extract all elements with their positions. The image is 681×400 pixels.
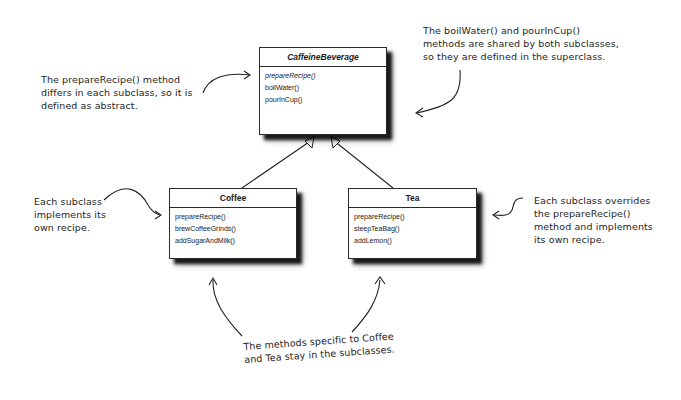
method-prepare-recipe: prepareRecipe()	[265, 70, 386, 82]
method-list: prepareRecipe() brewCoffeeGrinds() addSu…	[170, 208, 296, 247]
coffee-note-arrow-icon	[104, 189, 160, 215]
abstract-note-arrow-icon	[203, 74, 250, 93]
tea-note-arrow-icon	[494, 198, 523, 215]
method-list: prepareRecipe() boilWater() pourInCup()	[260, 67, 386, 106]
diagram-canvas: CaffeineBeverage prepareRecipe() boilWat…	[0, 0, 681, 400]
method-add-sugar-and-milk: addSugarAndMilk()	[175, 235, 296, 247]
method-list: prepareRecipe() steepTeaBag() addLemon()	[349, 208, 476, 247]
method-add-lemon: addLemon()	[354, 235, 476, 247]
method-prepare-recipe: prepareRecipe()	[175, 211, 296, 223]
class-name: Tea	[349, 189, 476, 208]
shared-note-arrow-icon	[417, 70, 460, 113]
coffee-inheritance-triangle-icon	[305, 137, 314, 148]
class-name: CaffeineBeverage	[260, 48, 386, 67]
class-name: Coffee	[170, 189, 296, 208]
method-boil-water: boilWater()	[265, 82, 386, 94]
note-coffee: Each subclass implements its own recipe.	[34, 195, 106, 234]
method-steep-tea-bag: steepTeaBag()	[354, 223, 476, 235]
class-tea: Tea prepareRecipe() steepTeaBag() addLem…	[348, 188, 477, 259]
tea-inheritance-triangle-icon	[331, 137, 340, 148]
bottom-note-right-arrow-icon	[352, 280, 380, 332]
note-shared: The boilWater() and pourInCup() methods …	[423, 24, 619, 63]
coffee-inheritance-line	[242, 140, 312, 188]
class-caffeine-beverage: CaffeineBeverage prepareRecipe() boilWat…	[259, 47, 387, 135]
note-abstract: The prepareRecipe() method differs in ea…	[41, 73, 192, 112]
method-pour-in-cup: pourInCup()	[265, 94, 386, 106]
note-tea: Each subclass overrides the prepareRecip…	[534, 194, 653, 246]
bottom-note-left-arrow-icon	[213, 280, 242, 336]
method-prepare-recipe: prepareRecipe()	[354, 211, 476, 223]
method-brew-coffee-grinds: brewCoffeeGrinds()	[175, 223, 296, 235]
tea-inheritance-line	[333, 140, 393, 188]
class-coffee: Coffee prepareRecipe() brewCoffeeGrinds(…	[169, 188, 297, 259]
